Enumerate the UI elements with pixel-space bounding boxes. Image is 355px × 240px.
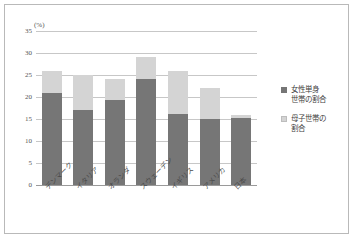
bar-segment-single-mother-household[interactable] — [42, 71, 62, 93]
legend-label-female-single-household: 女性単身世帯の割合 — [291, 85, 326, 105]
y-tick-label-35: 35 — [25, 28, 32, 35]
bar-segment-single-mother-household[interactable] — [200, 88, 220, 119]
y-tick-label-15: 15 — [25, 116, 32, 123]
chart-legend: 女性単身世帯の割合 母子世帯の割合 — [281, 85, 351, 143]
bar-segment-female-single-household[interactable] — [136, 79, 156, 185]
bar-group[interactable] — [42, 31, 62, 185]
light-swatch-icon — [281, 116, 287, 122]
bar-segment-single-mother-household[interactable] — [73, 75, 93, 110]
x-axis-labels: デンマークイタリアオランダスウェーデンイギリスアメリカ日本 — [36, 186, 257, 238]
dark-swatch-icon — [281, 87, 287, 93]
y-tick-label-30: 30 — [25, 50, 32, 57]
bar-group[interactable] — [105, 31, 125, 185]
y-axis-unit-label: (%) — [34, 21, 45, 29]
y-tick-label-0: 0 — [29, 182, 33, 189]
bar-group[interactable] — [231, 31, 251, 185]
bar-segment-single-mother-household[interactable] — [136, 57, 156, 79]
bar-group[interactable] — [200, 31, 220, 185]
bar-segment-female-single-household[interactable] — [231, 118, 251, 185]
bar-group[interactable] — [136, 31, 156, 185]
bar-segment-single-mother-household[interactable] — [105, 79, 125, 100]
chart-frame: (%) 05101520253035 デンマークイタリアオランダスウェーデンイギ… — [4, 4, 349, 234]
legend-item-female-single-household: 女性単身世帯の割合 — [281, 85, 351, 105]
bar-group[interactable] — [73, 31, 93, 185]
y-tick-label-25: 25 — [25, 72, 32, 79]
y-tick-label-5: 5 — [29, 160, 33, 167]
legend-label-single-mother-household: 母子世帯の割合 — [291, 114, 326, 134]
legend-item-single-mother-household: 母子世帯の割合 — [281, 114, 351, 134]
y-tick-label-20: 20 — [25, 94, 32, 101]
bar-segment-single-mother-household[interactable] — [168, 71, 188, 115]
y-tick-label-10: 10 — [25, 138, 32, 145]
